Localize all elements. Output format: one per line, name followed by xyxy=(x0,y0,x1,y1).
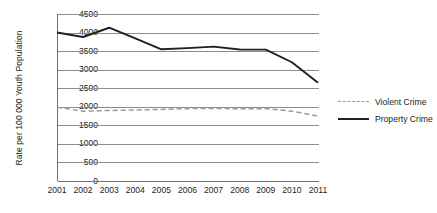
line-chart: Rate per 100 000 Youth Population 450040… xyxy=(0,0,437,213)
dashed-line-icon xyxy=(338,97,369,107)
series-lines xyxy=(57,14,318,181)
gridline xyxy=(58,181,319,182)
solid-line-icon xyxy=(338,114,369,124)
legend-item-violent-crime: Violent Crime xyxy=(338,93,433,110)
legend-label: Violent Crime xyxy=(375,97,426,107)
legend-label: Property Crime xyxy=(375,114,433,124)
series-line xyxy=(57,107,318,116)
legend: Violent Crime Property Crime xyxy=(338,93,433,127)
legend-item-property-crime: Property Crime xyxy=(338,110,433,127)
series-line xyxy=(57,28,318,83)
x-axis-tick-label: 2011 xyxy=(298,185,338,195)
y-axis-title: Rate per 100 000 Youth Population xyxy=(14,8,24,188)
